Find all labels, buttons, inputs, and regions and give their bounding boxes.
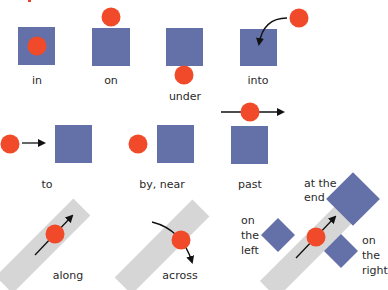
panel-past: past xyxy=(221,103,283,192)
square-left xyxy=(261,218,295,252)
label-on-the-left-1: on xyxy=(241,214,255,227)
panel-to: to xyxy=(1,125,93,191)
ball xyxy=(241,103,260,122)
label-on-the-left-3: left xyxy=(241,244,260,257)
label-in: in xyxy=(32,74,42,87)
label-by-near: by, near xyxy=(139,178,185,191)
panel-along: along xyxy=(0,199,90,290)
ball xyxy=(172,231,191,250)
square xyxy=(166,28,203,66)
ball xyxy=(129,135,148,154)
title-fragment xyxy=(28,0,31,2)
label-into: into xyxy=(247,74,268,87)
square xyxy=(231,126,268,164)
ball xyxy=(307,228,326,247)
label-at-the-end-1: at the xyxy=(304,177,337,190)
label-across: across xyxy=(162,269,198,282)
label-on-the-left-2: the xyxy=(241,229,259,242)
label-along: along xyxy=(53,269,83,282)
label-past: past xyxy=(238,178,262,191)
ball xyxy=(1,135,20,154)
ball xyxy=(102,8,121,27)
prepositions-diagram: in on under into to by, near past xyxy=(0,0,388,290)
square xyxy=(240,29,277,66)
label-on-the-right-3: right xyxy=(362,264,388,277)
panel-on: on xyxy=(92,8,130,88)
label-to: to xyxy=(41,178,52,191)
panel-position: at the end on the left on the right xyxy=(241,172,388,290)
label-under: under xyxy=(169,90,202,103)
square xyxy=(157,125,194,163)
ball xyxy=(46,225,65,244)
label-on-the-right-2: the xyxy=(362,249,380,262)
ball xyxy=(290,9,309,28)
panel-across: across xyxy=(115,200,210,290)
panel-in: in xyxy=(18,27,55,87)
ball xyxy=(175,66,194,85)
panel-under: under xyxy=(166,28,203,103)
label-on: on xyxy=(104,74,118,87)
ball xyxy=(28,37,47,56)
square xyxy=(92,28,130,66)
label-on-the-right-1: on xyxy=(362,234,376,247)
panel-by-near: by, near xyxy=(129,125,195,191)
label-at-the-end-2: end xyxy=(304,191,325,204)
panel-into: into xyxy=(240,9,309,88)
square xyxy=(55,125,92,163)
